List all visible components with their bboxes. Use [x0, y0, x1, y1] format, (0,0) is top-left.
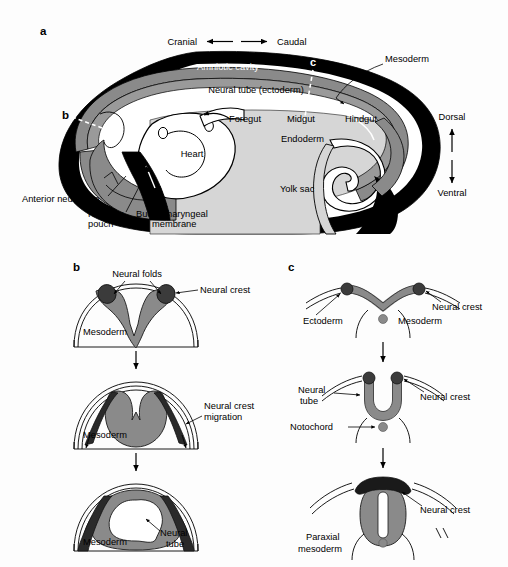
caudal-label: Caudal — [277, 37, 306, 47]
b1-neural-crest-label: Neural crest — [200, 285, 251, 295]
c1-neural-crest-label: Neural crest — [432, 302, 483, 312]
ventral-label: Ventral — [438, 188, 467, 198]
c3-neural-tube-lumen — [378, 492, 388, 538]
b1-neural-folds-label: Neural folds — [112, 269, 162, 279]
panel-a-letter: a — [40, 25, 47, 37]
c1-notochord-dot — [379, 315, 388, 324]
section-b-letter: b — [62, 109, 69, 121]
embryo-development-figure: a Cranial Caudal — [0, 0, 508, 567]
b3-mesoderm-label: Mesoderm — [83, 537, 127, 547]
b3-neural-tube-lumen — [109, 500, 162, 543]
anterior-neuropore-label: Anterior neuropore — [22, 194, 100, 204]
c2-neural-crest-label: Neural crest — [420, 392, 471, 402]
c3-neural-crest-label: Neural crest — [420, 505, 471, 515]
yolk-sac-label: Yolk sac — [280, 184, 315, 194]
b2-mesoderm-label: Mesoderm — [83, 430, 127, 440]
c1-ectoderm-label: Ectoderm — [303, 316, 343, 326]
c2-neural-tube-label-1: Neural — [298, 385, 325, 395]
dorsal-label: Dorsal — [439, 112, 466, 122]
rathkes-pouch-label-2: pouch — [88, 219, 113, 229]
c1-mesoderm-label: Mesoderm — [398, 316, 442, 326]
cranial-label: Cranial — [168, 37, 197, 47]
midgut-label: Midgut — [287, 114, 315, 124]
c3-paraxial-label-1: Paraxial — [306, 532, 340, 542]
b3-neural-tube-label-2: tube — [166, 539, 184, 549]
b1-mesoderm-label: Mesoderm — [83, 327, 127, 337]
panel-b-letter: b — [73, 261, 80, 273]
b2-neural-crest-label-1: Neural crest — [204, 401, 255, 411]
c2-neural-crest-right — [391, 372, 403, 384]
section-c-letter: c — [310, 56, 316, 68]
foregut-label: Foregut — [229, 114, 261, 124]
c3-paraxial-label-2: mesoderm — [298, 544, 342, 554]
c2-neural-crest-left — [363, 372, 375, 384]
b2-neural-crest-label-2: migration — [204, 412, 242, 422]
rathkes-pouch-label-1: Rathke's — [88, 209, 124, 219]
heart-label: Heart — [181, 149, 204, 159]
b3-neural-tube-label-1: Neural — [160, 528, 187, 538]
c2-notochord-dot — [379, 423, 388, 432]
heart-chamber-left — [158, 127, 167, 138]
c2-notochord-label: Notochord — [290, 422, 333, 432]
c1-neural-crest-left — [341, 283, 353, 295]
neural-tube-label: Neural tube (ectoderm) — [208, 85, 304, 95]
endoderm-label: Endoderm — [281, 134, 324, 144]
mesoderm-label-a: Mesoderm — [385, 54, 429, 64]
c3-notochord-dot — [379, 539, 387, 547]
buccopharyngeal-label-2: membrane — [152, 219, 196, 229]
panel-c-letter: c — [288, 261, 295, 273]
figure-canvas: a Cranial Caudal — [0, 0, 508, 567]
hindgut-label: Hindgut — [345, 114, 377, 124]
c2-neural-tube-label-2: tube — [300, 396, 318, 406]
buccopharyngeal-label-1: Buccopharyngeal — [136, 209, 208, 219]
c1-neural-crest-right — [413, 283, 425, 295]
amniotic-cavity-label: Amniotic cavity — [197, 62, 259, 72]
